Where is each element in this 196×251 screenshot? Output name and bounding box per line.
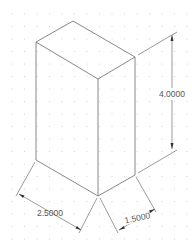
- width-dimension-label: 2.5000: [37, 208, 63, 218]
- height-dimension-label: 4.0000: [159, 89, 185, 99]
- width-dimension: 2.5000: [16, 162, 97, 233]
- bottom-left-edge: [36, 160, 98, 196]
- top-face: [36, 21, 135, 79]
- bottom-right-edge: [98, 175, 135, 196]
- depth-dimension: 1.5000: [100, 177, 156, 233]
- box-edges: [36, 21, 135, 196]
- depth-dimension-label: 1.5000: [124, 210, 152, 225]
- grid-dots: [12, 14, 188, 240]
- height-dimension: 4.0000: [138, 32, 188, 173]
- isometric-drawing-canvas: 4.0000 2.5000 1.5000: [0, 0, 196, 251]
